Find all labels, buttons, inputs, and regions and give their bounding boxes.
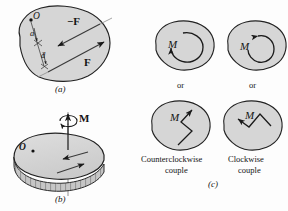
blob-1-moment-label: M — [168, 39, 177, 50]
panel-b-point-o — [31, 149, 34, 152]
panel-b-moment-label: M — [79, 113, 89, 124]
ccw-couple-caption-line2: couple — [165, 166, 188, 175]
panel-b-graphics — [14, 112, 104, 196]
cw-couple-caption-line2: couple — [238, 166, 261, 175]
cw-couple-caption-line1: Clockwise — [228, 155, 264, 164]
figure-graphics — [0, 0, 288, 211]
blob-3-moment-label: M — [170, 112, 179, 123]
panel-c-blob-1 — [156, 21, 214, 70]
panel-c-caption: (c) — [208, 180, 218, 189]
blob-2-moment-label: M — [240, 41, 249, 52]
panel-b-point-label: O — [19, 143, 26, 153]
or-label-left: or — [177, 81, 184, 90]
figure-container: O a d −F F (a) M O (b) M M M M or or Cou… — [0, 0, 288, 211]
blob-4-moment-label: M — [245, 110, 254, 121]
panel-c-blob-2 — [228, 21, 286, 70]
panel-b-caption: (b) — [55, 195, 66, 204]
force-neg-label: −F — [67, 16, 80, 27]
force-pos-label: F — [84, 57, 91, 68]
ccw-couple-caption-line1: Counterclockwise — [141, 155, 202, 164]
or-label-right: or — [249, 81, 256, 90]
force-neg-line-ext — [100, 18, 112, 24]
panel-a-distance-a-label: a — [30, 29, 34, 38]
panel-a-caption: (a) — [55, 85, 66, 94]
panel-a-point-label: O — [33, 12, 40, 22]
panel-a-distance-d-label: d — [41, 51, 45, 60]
